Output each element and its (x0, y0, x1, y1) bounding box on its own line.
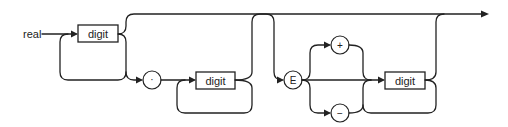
entry-path (42, 31, 78, 38)
digit-box-integer: digit (78, 25, 118, 42)
digit-label: digit (88, 28, 108, 40)
minus-sign-node: − (331, 104, 349, 122)
minus-symbol: − (337, 108, 343, 119)
top-bypass-path (118, 11, 489, 35)
digit-box-exponent: digit (385, 72, 425, 89)
plus-sign-node: + (331, 36, 349, 54)
decimal-point-node: · (143, 71, 161, 89)
arrow-to-e (277, 77, 284, 84)
digit-label: digit (205, 75, 225, 87)
plus-symbol: + (337, 40, 343, 51)
sign-merge-paths (349, 45, 371, 113)
dot-symbol: · (150, 74, 153, 85)
path-fraction-to-exponent (235, 14, 282, 80)
digit-label: digit (395, 75, 415, 87)
exponent-node: E (284, 71, 302, 89)
digit-box-fraction: digit (196, 72, 235, 89)
real-number-syntax-diagram: real digit · digit E (0, 0, 508, 127)
e-symbol: E (290, 75, 297, 86)
start-label-real: real (23, 28, 41, 40)
path-exponent-to-exit (425, 14, 444, 80)
path-to-dot (126, 72, 143, 84)
